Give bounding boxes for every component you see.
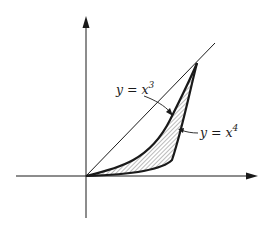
y-axis xyxy=(83,16,90,218)
label-x-fourth-exponent: 4 xyxy=(232,123,239,133)
diagram: y = x3 y = x4 xyxy=(0,0,268,229)
label-x-cubed-text: y = x xyxy=(115,82,149,97)
label-x-cubed-exponent: 3 xyxy=(149,80,155,90)
x-axis-arrow-icon xyxy=(246,173,258,180)
svg-text:y = x4: y = x4 xyxy=(199,123,239,140)
arrow-to-x-cubed xyxy=(144,96,170,112)
label-x-fourth: y = x4 xyxy=(178,123,239,140)
svg-text:y = x3: y = x3 xyxy=(115,80,155,97)
label-x-cubed: y = x3 xyxy=(115,80,173,116)
x-axis xyxy=(16,173,258,180)
y-axis-arrow-icon xyxy=(83,16,90,28)
leader-to-x-fourth xyxy=(181,130,198,133)
label-x-fourth-text: y = x xyxy=(199,125,233,140)
